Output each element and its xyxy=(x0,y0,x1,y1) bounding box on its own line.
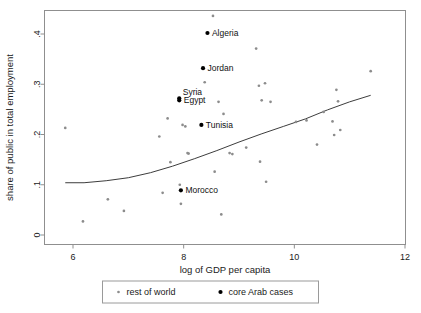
data-point-rest-of-world[interactable] xyxy=(203,81,206,84)
data-point-rest-of-world[interactable] xyxy=(331,120,334,123)
data-point-rest-of-world[interactable] xyxy=(213,170,216,173)
data-point-rest-of-world[interactable] xyxy=(187,152,190,155)
y-axis-tick-label: 0 xyxy=(32,232,42,237)
data-point-rest-of-world[interactable] xyxy=(228,152,231,155)
data-point-label: Tunisia xyxy=(206,120,233,130)
legend-label-core-Arab-cases[interactable]: core Arab cases xyxy=(229,287,294,297)
data-point-rest-of-world[interactable] xyxy=(166,117,169,120)
y-axis-tick-label: .2 xyxy=(32,131,42,139)
data-point-rest-of-world[interactable] xyxy=(369,70,372,73)
chart-canvas: 0.1.2.3.4share of public in total employ… xyxy=(0,0,421,313)
scatter-plot-figure: 0.1.2.3.4share of public in total employ… xyxy=(0,0,421,313)
data-point-rest-of-world[interactable] xyxy=(222,113,225,116)
data-point-rest-of-world[interactable] xyxy=(260,99,263,102)
x-axis-tick-label: 12 xyxy=(400,252,410,262)
data-point-core-arab[interactable] xyxy=(199,123,203,127)
data-point-rest-of-world[interactable] xyxy=(107,198,110,201)
data-point-core-arab[interactable] xyxy=(179,188,183,192)
data-point-rest-of-world[interactable] xyxy=(220,213,223,216)
data-point-rest-of-world[interactable] xyxy=(264,82,267,85)
data-point-rest-of-world[interactable] xyxy=(82,220,85,223)
x-axis-tick-label: 10 xyxy=(289,252,299,262)
data-point-rest-of-world[interactable] xyxy=(123,210,126,213)
data-point-rest-of-world[interactable] xyxy=(255,47,258,50)
data-point-rest-of-world[interactable] xyxy=(259,160,262,163)
data-point-label: Egypt xyxy=(184,95,206,105)
data-point-rest-of-world[interactable] xyxy=(181,124,184,127)
legend: rest of worldcore Arab cases xyxy=(103,281,319,303)
y-axis-tick-label: .1 xyxy=(32,181,42,189)
data-point-core-arab[interactable] xyxy=(201,66,205,70)
data-point-rest-of-world[interactable] xyxy=(245,146,248,149)
data-point-rest-of-world[interactable] xyxy=(322,111,325,114)
data-point-rest-of-world[interactable] xyxy=(184,125,187,128)
data-point-rest-of-world[interactable] xyxy=(258,84,261,87)
data-point-core-arab[interactable] xyxy=(177,98,181,102)
data-point-rest-of-world[interactable] xyxy=(178,183,181,186)
y-axis-tick-label: .3 xyxy=(32,80,42,88)
data-point-rest-of-world[interactable] xyxy=(161,191,164,194)
data-point-label: Algeria xyxy=(212,28,239,38)
data-point-rest-of-world[interactable] xyxy=(316,143,319,146)
data-point-rest-of-world[interactable] xyxy=(180,202,183,205)
data-point-rest-of-world[interactable] xyxy=(158,135,161,138)
fit-line xyxy=(65,95,370,182)
data-point-rest-of-world[interactable] xyxy=(295,121,298,124)
x-axis-tick-label: 8 xyxy=(181,252,186,262)
data-point-rest-of-world[interactable] xyxy=(265,180,268,183)
data-point-core-arab[interactable] xyxy=(205,31,209,35)
data-point-rest-of-world[interactable] xyxy=(231,153,234,156)
x-axis: 681012 xyxy=(70,245,410,262)
data-point-rest-of-world[interactable] xyxy=(169,161,172,164)
data-point-label: Jordan xyxy=(208,63,234,73)
series-core-Arab-cases: AlgeriaJordanSyriaEgyptTunisiaMorocco xyxy=(177,28,239,195)
y-axis-tick-label: .4 xyxy=(32,30,42,38)
y-axis: 0.1.2.3.4 xyxy=(32,30,45,237)
x-axis-title: log of GDP per capita xyxy=(180,264,271,275)
legend-marker-rest-of-world[interactable] xyxy=(117,291,120,294)
data-point-rest-of-world[interactable] xyxy=(335,88,338,91)
data-point-rest-of-world[interactable] xyxy=(305,119,308,122)
data-point-rest-of-world[interactable] xyxy=(333,134,336,137)
legend-marker-core-Arab-cases[interactable] xyxy=(218,290,222,294)
data-point-rest-of-world[interactable] xyxy=(269,100,272,103)
data-point-rest-of-world[interactable] xyxy=(337,100,340,103)
data-point-rest-of-world[interactable] xyxy=(339,129,342,132)
legend-label-rest-of-world[interactable]: rest of world xyxy=(127,287,176,297)
data-point-label: Morocco xyxy=(185,185,218,195)
y-axis-title: share of public in total employment xyxy=(4,54,15,201)
data-point-rest-of-world[interactable] xyxy=(217,100,220,103)
data-point-rest-of-world[interactable] xyxy=(212,15,215,18)
data-point-rest-of-world[interactable] xyxy=(64,127,67,130)
x-axis-tick-label: 6 xyxy=(70,252,75,262)
